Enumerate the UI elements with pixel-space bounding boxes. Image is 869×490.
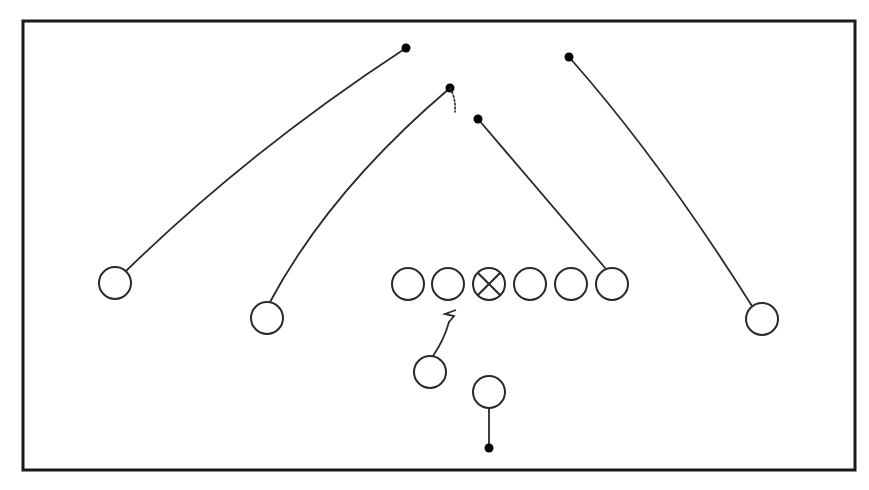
player-slot-left <box>251 302 283 334</box>
player-qb <box>473 376 505 408</box>
player-circle-icon <box>251 302 283 334</box>
player-circle-icon <box>555 268 587 300</box>
player-rt <box>555 268 587 300</box>
player-rb <box>414 356 446 388</box>
player-circle-icon <box>414 356 446 388</box>
player-circle-icon <box>473 376 505 408</box>
route-end-dot-icon <box>485 444 494 453</box>
player-circle-icon <box>514 268 546 300</box>
player-circle-icon <box>596 268 628 300</box>
player-circle-icon <box>746 303 778 335</box>
player-circle-icon <box>392 268 424 300</box>
play-canvas <box>0 0 869 490</box>
player-rg <box>514 268 546 300</box>
player-c <box>473 268 505 300</box>
route-end-dot-icon <box>402 44 411 53</box>
player-lt <box>392 268 424 300</box>
player-lg <box>432 268 464 300</box>
play-diagram <box>0 0 869 490</box>
player-circle-icon <box>99 267 131 299</box>
route-end-dot-icon <box>565 53 574 62</box>
route-end-dot-icon <box>474 115 483 124</box>
player-wr-right <box>746 303 778 335</box>
player-circle-icon <box>432 268 464 300</box>
player-wr-left <box>99 267 131 299</box>
field-frame <box>23 21 855 470</box>
player-te <box>596 268 628 300</box>
